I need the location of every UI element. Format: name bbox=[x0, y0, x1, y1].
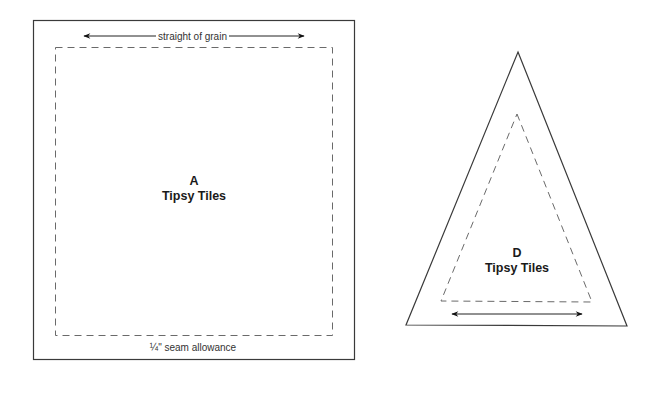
template-d-name: Tipsy Tiles bbox=[485, 261, 549, 275]
grain-label: straight of grain bbox=[158, 31, 227, 42]
template-d-cut-line bbox=[406, 52, 627, 326]
quilt-templates-diagram: straight of grain ¼" seam allowance A Ti… bbox=[0, 0, 662, 407]
template-a-name: Tipsy Tiles bbox=[162, 189, 226, 203]
template-a-letter: A bbox=[189, 174, 198, 188]
seam-allowance-label: ¼" seam allowance bbox=[150, 342, 237, 353]
template-d-letter: D bbox=[512, 246, 521, 260]
template-a: straight of grain ¼" seam allowance A Ti… bbox=[34, 21, 355, 360]
template-d: D Tipsy Tiles bbox=[406, 52, 627, 326]
